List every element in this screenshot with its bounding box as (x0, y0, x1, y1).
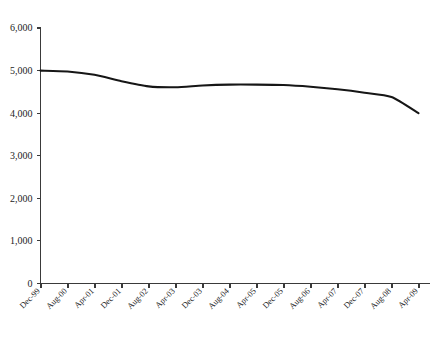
y-tick-label: 0 (28, 278, 33, 289)
x-tick-label: Aug-02 (125, 287, 149, 311)
x-tick-label: Aug-06 (287, 287, 311, 311)
x-tick-label: Aug-04 (206, 286, 231, 311)
x-tick-label: Dec-05 (261, 287, 285, 311)
x-tick-label: Dec-01 (99, 287, 123, 311)
series-line-1 (41, 71, 419, 114)
x-tick-label: Aug-08 (368, 287, 392, 311)
line-chart: 01,0002,0003,0004,0005,0006,000 Dec-99Au… (0, 0, 438, 340)
chart-canvas: 01,0002,0003,0004,0005,0006,000 Dec-99Au… (0, 0, 438, 340)
y-tick-label: 1,000 (10, 235, 33, 246)
x-tick-label: Aug-00 (44, 287, 68, 311)
y-tick-label: 4,000 (10, 108, 33, 119)
y-axis-group: 01,0002,0003,0004,0005,0006,000 (10, 22, 41, 289)
x-tick-label: Apr-03 (154, 287, 177, 310)
x-tick-label: Apr-07 (316, 287, 339, 310)
series-group (41, 71, 419, 114)
x-tick-label: Dec-03 (180, 287, 204, 311)
y-tick-label: 6,000 (10, 22, 33, 33)
y-tick-group: 01,0002,0003,0004,0005,0006,000 (10, 22, 41, 289)
x-tick-label: Apr-01 (73, 287, 96, 310)
y-tick-label: 3,000 (10, 150, 33, 161)
x-tick-label: Dec-99 (18, 287, 42, 311)
x-axis-group (41, 284, 431, 288)
x-tick-group (41, 284, 419, 288)
x-tick-label-group: Dec-99Aug-00Apr-01Dec-01Aug-02Apr-03Dec-… (18, 286, 420, 311)
y-tick-label: 5,000 (10, 65, 33, 76)
x-tick-label: Apr-05 (235, 287, 258, 310)
y-tick-label: 2,000 (10, 193, 33, 204)
x-tick-label: Apr-09 (397, 287, 420, 310)
x-tick-label: Dec-07 (342, 287, 366, 311)
